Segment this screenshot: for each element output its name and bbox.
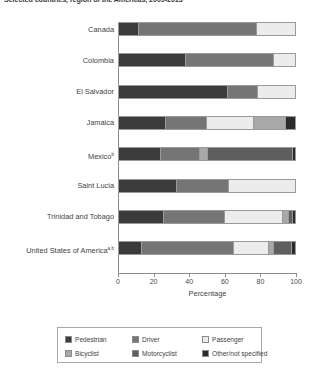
chart-row <box>118 85 296 99</box>
axis-tick <box>154 273 155 277</box>
chart-row <box>118 179 296 193</box>
legend-item[interactable]: Bicyclist <box>65 350 132 357</box>
x-axis-line <box>118 273 297 274</box>
legend-label: Other/not specified <box>212 350 267 357</box>
stacked-bar-chart: Selected countries, region of the Americ… <box>0 0 314 373</box>
bar-segment[interactable] <box>163 211 224 223</box>
legend-item[interactable]: Motorcyclist <box>132 350 202 357</box>
axis-tick <box>225 273 226 277</box>
stacked-bar[interactable] <box>118 85 296 99</box>
chart-row <box>118 53 296 67</box>
bar-segment[interactable] <box>141 242 233 254</box>
x-axis-title: Percentage <box>118 289 297 298</box>
category-label: Canada <box>6 23 114 37</box>
bar-segment[interactable] <box>119 211 163 223</box>
legend-label: Motorcyclist <box>142 350 177 357</box>
category-label: Trinidad and Tobago <box>6 210 114 224</box>
axis-tick-label: 0 <box>116 278 120 285</box>
axis-tick-label: 60 <box>221 278 229 285</box>
footnote-marker: b <box>111 152 114 157</box>
stacked-bar[interactable] <box>118 179 296 193</box>
axis-tick-label: 80 <box>256 278 264 285</box>
chart-row <box>118 241 296 255</box>
bar-segment[interactable] <box>292 148 295 160</box>
bar-segment[interactable] <box>160 148 199 160</box>
legend-swatch <box>132 336 139 343</box>
axis-tick-label: 100 <box>290 278 302 285</box>
category-label: Jamaica <box>6 116 114 130</box>
axis-tick-label: 40 <box>185 278 193 285</box>
bar-segment[interactable] <box>256 23 295 35</box>
category-label: Colombia <box>6 54 114 68</box>
legend-swatch <box>65 350 72 357</box>
bar-segment[interactable] <box>273 242 291 254</box>
bar-segment[interactable] <box>253 117 285 129</box>
axis-tick <box>296 273 297 277</box>
bar-segment[interactable] <box>176 180 227 192</box>
axis-tick-label: 20 <box>150 278 158 285</box>
stacked-bar[interactable] <box>118 22 296 36</box>
bar-segment[interactable] <box>273 54 295 66</box>
bar-segment[interactable] <box>119 23 138 35</box>
bar-segment[interactable] <box>119 242 141 254</box>
bar-segment[interactable] <box>119 54 185 66</box>
bar-segment[interactable] <box>224 211 281 223</box>
category-label: Saint Lucia <box>6 179 114 193</box>
legend-swatch <box>202 336 209 343</box>
stacked-bar[interactable] <box>118 241 296 255</box>
stacked-bar[interactable] <box>118 116 296 130</box>
stacked-bar[interactable] <box>118 210 296 224</box>
legend-item[interactable]: Other/not specified <box>202 350 270 357</box>
bar-segment[interactable] <box>119 86 227 98</box>
bar-segment[interactable] <box>228 180 295 192</box>
bar-segment[interactable] <box>292 211 295 223</box>
bar-segment[interactable] <box>138 23 256 35</box>
axis-tick <box>189 273 190 277</box>
bar-segment[interactable] <box>165 117 206 129</box>
category-label: Mexicob <box>6 148 114 162</box>
chart-row <box>118 116 296 130</box>
stacked-bar[interactable] <box>118 53 296 67</box>
legend-label: Driver <box>142 336 160 343</box>
legend-item[interactable]: Pedestrian <box>65 336 132 343</box>
legend-label: Pedestrian <box>75 336 107 343</box>
axis-tick <box>260 273 261 277</box>
bar-segment[interactable] <box>227 86 258 98</box>
legend-swatch <box>132 350 139 357</box>
legend-label: Bicyclist <box>75 350 99 357</box>
legend-item[interactable]: Driver <box>132 336 202 343</box>
bar-segment[interactable] <box>199 148 207 160</box>
bar-segment[interactable] <box>257 86 295 98</box>
axis-tick <box>118 273 119 277</box>
bar-segment[interactable] <box>185 54 273 66</box>
bar-segment[interactable] <box>206 117 253 129</box>
bar-segment[interactable] <box>119 148 160 160</box>
legend-item[interactable]: Passenger <box>202 336 270 343</box>
bar-segment[interactable] <box>119 180 176 192</box>
chart-row <box>118 147 296 161</box>
bar-segment[interactable] <box>291 242 295 254</box>
chart-title: Selected countries, region of the Americ… <box>4 0 310 4</box>
legend-label: Passenger <box>212 336 244 343</box>
bar-segment[interactable] <box>285 117 295 129</box>
bar-segment[interactable] <box>233 242 268 254</box>
legend-swatch <box>202 350 209 357</box>
chart-row <box>118 22 296 36</box>
bar-segment[interactable] <box>207 148 292 160</box>
plot-area <box>118 22 296 272</box>
category-label: El Salvador <box>6 85 114 99</box>
chart-row <box>118 210 296 224</box>
category-label: United States of Americaa,b <box>6 242 114 256</box>
stacked-bar[interactable] <box>118 147 296 161</box>
legend: PedestrianDriverPassengerBicyclistMotorc… <box>57 327 262 363</box>
legend-swatch <box>65 336 72 343</box>
bar-segment[interactable] <box>119 117 165 129</box>
footnote-marker: a,b <box>108 246 114 251</box>
